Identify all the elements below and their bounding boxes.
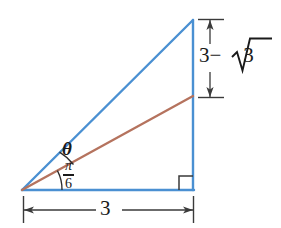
height-radical-group: 3 — [242, 45, 254, 66]
geometry-figure: θ π 6 3−3 3 — [0, 0, 281, 228]
pi-over-six-fraction: π 6 — [63, 159, 74, 191]
vertical-dimension-label: 3−3 — [199, 45, 254, 66]
pi-over-six-angle-arc — [57, 171, 62, 190]
triangle-shape — [22, 20, 194, 190]
height-first-term: 3 — [199, 43, 210, 67]
theta-label: θ — [62, 139, 72, 158]
pi-over-six-label: π 6 — [63, 159, 74, 191]
right-angle-marker — [179, 176, 193, 190]
base-dimension-label: 3 — [100, 198, 111, 219]
height-radicand: 3 — [243, 43, 254, 67]
height-minus-operator: − — [210, 43, 222, 67]
pi-over-six-numerator: π — [63, 159, 74, 173]
triangle-hypotenuse-line — [22, 20, 193, 190]
pi-over-six-denominator: 6 — [63, 177, 74, 191]
figure-canvas — [0, 0, 281, 228]
interior-ray-line — [22, 96, 193, 190]
